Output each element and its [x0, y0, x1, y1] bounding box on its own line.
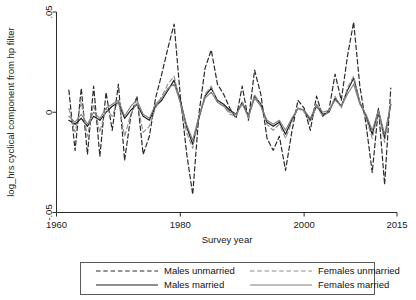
chart-figure: .050-.05 1960198020002015 log_hrs cyclic…: [0, 0, 416, 300]
y-axis: .050-.05: [43, 5, 57, 220]
x-tick-label: 1980: [170, 219, 191, 230]
x-tick-label: 2000: [294, 219, 315, 230]
x-axis-title: Survey year: [202, 234, 253, 245]
y-tick-label: .05: [43, 5, 54, 18]
y-axis-title: log_hrs cyclical component from hp filte…: [5, 27, 16, 197]
x-axis: 1960198020002015: [46, 213, 408, 230]
x-tick-label: 2015: [386, 219, 407, 230]
y-tick-label: 0: [43, 110, 54, 115]
cyclical-component-line-chart: .050-.05 1960198020002015 log_hrs cyclic…: [0, 0, 416, 300]
legend-label-males-married: Males married: [164, 279, 224, 290]
legend-label-females-unmarried: Females unmarried: [318, 265, 400, 276]
legend: Males unmarriedFemales unmarriedMales ma…: [81, 263, 400, 295]
x-tick-label: 1960: [46, 219, 67, 230]
legend-label-females-married: Females married: [318, 279, 389, 290]
legend-label-males-unmarried: Males unmarried: [164, 265, 235, 276]
series-layer: [69, 22, 391, 194]
x-tick-group: 1960198020002015: [46, 213, 408, 230]
plot-area: [69, 22, 391, 194]
series-line-males-unmarried: [69, 22, 391, 194]
y-tick-group: .050-.05: [43, 5, 57, 220]
